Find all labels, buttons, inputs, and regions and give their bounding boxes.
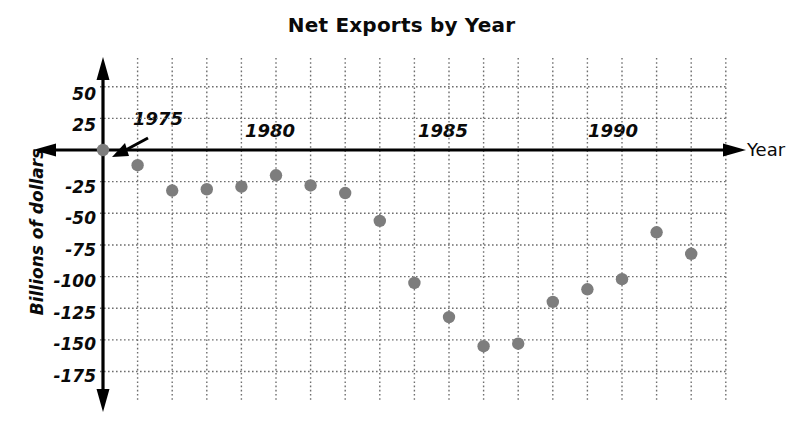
data-point — [235, 181, 247, 193]
data-point — [304, 179, 316, 191]
data-point — [477, 340, 489, 352]
x-axis — [33, 144, 746, 157]
vertical-gridlines — [138, 58, 726, 400]
data-point — [166, 184, 178, 196]
y-axis — [97, 57, 110, 412]
data-point-group — [97, 144, 698, 353]
data-point — [547, 296, 559, 308]
data-point — [616, 273, 628, 285]
data-point — [685, 248, 697, 260]
data-point — [131, 159, 143, 171]
data-point — [443, 311, 455, 323]
data-point — [339, 187, 351, 199]
data-point — [97, 144, 109, 156]
data-point — [374, 215, 386, 227]
data-point — [270, 169, 282, 181]
annotation-arrow-icon — [112, 138, 148, 157]
plot-area — [0, 0, 803, 429]
chart-container: Net Exports by Year Billions of dollars … — [0, 0, 803, 429]
horizontal-gridlines — [100, 87, 726, 372]
data-point — [650, 226, 662, 238]
data-point — [512, 337, 524, 349]
data-point — [201, 183, 213, 195]
data-point — [408, 277, 420, 289]
data-point — [581, 283, 593, 295]
